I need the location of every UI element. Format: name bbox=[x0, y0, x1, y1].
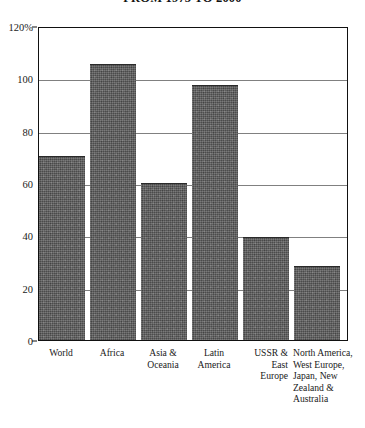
x-label-africa: Africa bbox=[89, 347, 135, 359]
x-label-latin-america: LatinAmerica bbox=[189, 347, 239, 370]
x-label-asia-oceania: Asia &Oceania bbox=[138, 347, 188, 370]
y-tick-mark-120 bbox=[32, 27, 37, 28]
bar-latin-america[interactable] bbox=[192, 85, 238, 340]
bar-world[interactable] bbox=[39, 156, 85, 340]
y-tick-label-60: 60 bbox=[23, 179, 34, 190]
y-tick-label-80: 80 bbox=[23, 126, 34, 137]
bar-north-america-group[interactable] bbox=[294, 266, 340, 340]
y-tick-label-20: 20 bbox=[23, 283, 34, 294]
bar-africa[interactable] bbox=[90, 64, 136, 340]
bar-ussr-east-europe[interactable] bbox=[243, 237, 289, 340]
x-label-north-america-group: North America,West Europe,Japan, NewZeal… bbox=[293, 347, 365, 405]
bar-asia-oceania[interactable] bbox=[141, 183, 187, 340]
chart-title: FROM 1975 TO 2000 bbox=[0, 0, 365, 6]
y-tick-label-100: 100 bbox=[17, 74, 33, 85]
plot-area bbox=[38, 27, 348, 341]
y-tick-mark-0 bbox=[32, 341, 37, 342]
x-label-ussr-east-europe: USSR &EastEurope bbox=[238, 347, 288, 382]
y-tick-label-40: 40 bbox=[23, 231, 34, 242]
bars-layer bbox=[39, 28, 347, 340]
y-tick-label-120: 120% bbox=[9, 22, 34, 33]
x-axis-labels: World Africa Asia &Oceania LatinAmerica … bbox=[38, 347, 348, 427]
x-label-world: World bbox=[38, 347, 84, 359]
y-axis: 120% 100 80 60 40 20 0 bbox=[0, 27, 36, 341]
